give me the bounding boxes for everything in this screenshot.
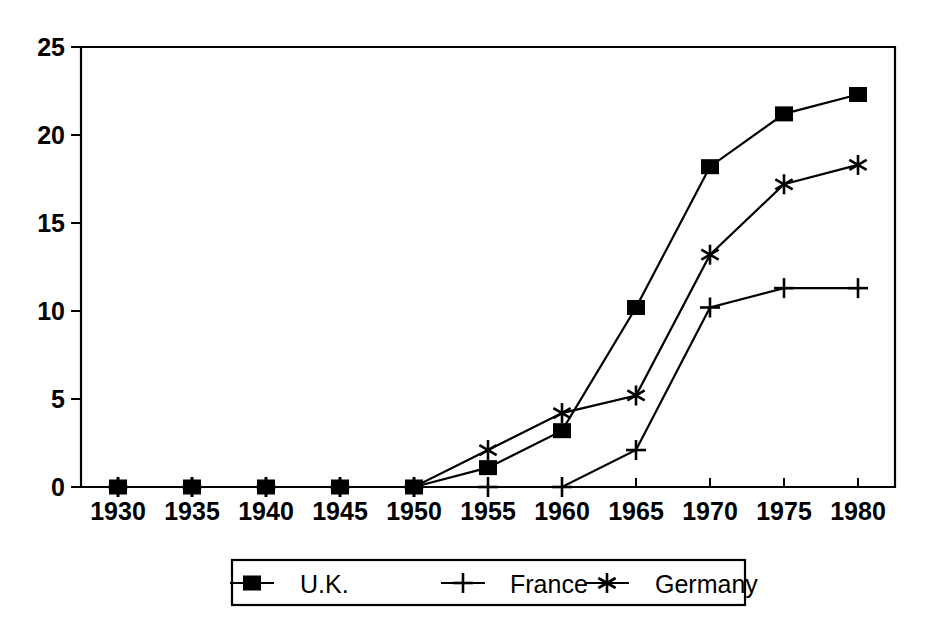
- series-line: [118, 165, 858, 487]
- y-axis-tick-labels: 0510152025: [37, 33, 65, 501]
- y-tick-label: 5: [51, 385, 65, 413]
- x-axis-tick-labels: 1930193519401945195019551960196519701975…: [90, 497, 886, 525]
- x-tick-label: 1940: [238, 497, 294, 525]
- legend-label: Germany: [655, 570, 758, 598]
- x-tick-label: 1975: [756, 497, 812, 525]
- legend-label: U.K.: [300, 570, 349, 598]
- legend-label: France: [510, 570, 588, 598]
- x-tick-label: 1950: [386, 497, 442, 525]
- y-axis-ticks: [71, 47, 81, 487]
- y-tick-label: 10: [37, 297, 65, 325]
- plot-border: [81, 47, 895, 487]
- line-chart: 0510152025 19301935194019451950195519601…: [0, 0, 937, 634]
- legend: U.K.FranceGermany: [230, 560, 758, 605]
- x-tick-label: 1930: [90, 497, 146, 525]
- legend-marker-square: [243, 576, 261, 591]
- data-point-marker-square: [627, 300, 645, 315]
- y-tick-label: 20: [37, 121, 65, 149]
- data-point-marker-square: [775, 106, 793, 121]
- y-tick-label: 15: [37, 209, 65, 237]
- series-germany: [109, 155, 866, 497]
- chart-svg: 0510152025 19301935194019451950195519601…: [0, 0, 937, 634]
- data-point-marker-square: [849, 87, 867, 102]
- x-tick-label: 1955: [460, 497, 516, 525]
- x-tick-label: 1960: [534, 497, 590, 525]
- y-tick-label: 25: [37, 33, 65, 61]
- x-tick-label: 1945: [312, 497, 368, 525]
- x-tick-label: 1970: [682, 497, 738, 525]
- series-uk: [109, 87, 867, 494]
- data-point-marker-square: [701, 159, 719, 174]
- x-tick-label: 1980: [830, 497, 886, 525]
- series-group: [108, 87, 868, 497]
- plot-frame: [81, 47, 895, 487]
- y-tick-label: 0: [51, 473, 65, 501]
- series-line: [118, 95, 858, 487]
- data-point-marker-square: [479, 460, 497, 475]
- x-tick-label: 1935: [164, 497, 220, 525]
- data-point-marker-square: [553, 423, 571, 438]
- x-tick-label: 1965: [608, 497, 664, 525]
